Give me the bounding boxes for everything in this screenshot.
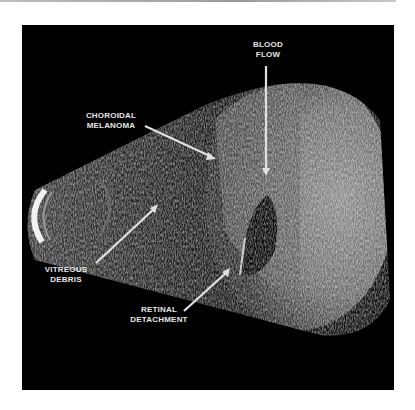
label-retinal-detachment: RETINAL DETACHMENT (120, 305, 198, 324)
label-line: RETINAL (120, 305, 198, 315)
label-line: CHOROIDAL (76, 111, 146, 121)
label-blood-flow: BLOOD FLOW (243, 40, 293, 59)
label-line: VITREOUS (36, 265, 96, 275)
label-line: MELANOMA (76, 121, 146, 131)
label-vitreous-debris: VITREOUS DEBRIS (36, 265, 96, 284)
label-choroidal-melanoma: CHOROIDAL MELANOMA (76, 111, 146, 130)
label-line: DETACHMENT (120, 315, 198, 325)
ultrasound-figure (0, 0, 415, 410)
label-line: FLOW (243, 50, 293, 60)
label-line: BLOOD (243, 40, 293, 50)
label-line: DEBRIS (36, 275, 96, 285)
